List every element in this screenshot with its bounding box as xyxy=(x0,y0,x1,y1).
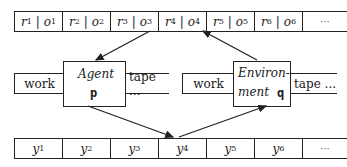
arrows xyxy=(0,0,347,167)
arrow-bottom-tape-to-environment xyxy=(179,106,266,137)
arrow-tape-to-agent xyxy=(96,31,150,60)
arrow-environment-to-tape xyxy=(203,31,257,60)
arrow-agent-to-bottom-tape xyxy=(88,106,173,137)
